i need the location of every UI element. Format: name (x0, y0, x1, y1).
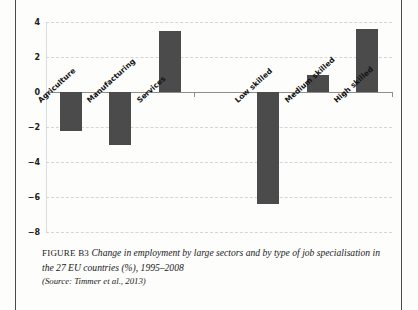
figure-caption: FIGURE B3 Change in employment by large … (42, 246, 387, 289)
bar-manufacturing[interactable] (109, 92, 131, 145)
figure-number: FIGURE B3 (42, 248, 89, 258)
y-tick-label: −2 (28, 123, 40, 132)
x-tick (194, 92, 195, 97)
y-tick-label: 4 (34, 18, 40, 27)
gridline-2 (46, 57, 392, 58)
x-tick (392, 92, 393, 97)
y-tick-label: −6 (28, 193, 40, 202)
gridline--6 (46, 197, 392, 198)
figure-source: (Source: Timmer et al., 2013) (42, 275, 387, 289)
figure-b3: 420−2−4−6−8AgricultureManufacturingServi… (16, 0, 401, 310)
gridline--2 (46, 127, 392, 128)
page-right-rule (401, 0, 402, 310)
figure-title: Change in employment by large sectors an… (42, 247, 380, 273)
y-tick-label: −4 (28, 158, 40, 167)
y-tick-label: 2 (34, 53, 40, 62)
gridline--4 (46, 162, 392, 163)
gridline--8 (46, 232, 392, 233)
bar-chart: 420−2−4−6−8AgricultureManufacturingServi… (16, 0, 401, 240)
bar-low-skilled[interactable] (257, 92, 279, 204)
bar-agriculture[interactable] (60, 92, 82, 131)
book-page: 420−2−4−6−8AgricultureManufacturingServi… (0, 0, 418, 310)
gridline-4 (46, 22, 392, 23)
plot-area: 420−2−4−6−8AgricultureManufacturingServi… (46, 22, 392, 232)
y-tick-label: −8 (28, 228, 40, 237)
